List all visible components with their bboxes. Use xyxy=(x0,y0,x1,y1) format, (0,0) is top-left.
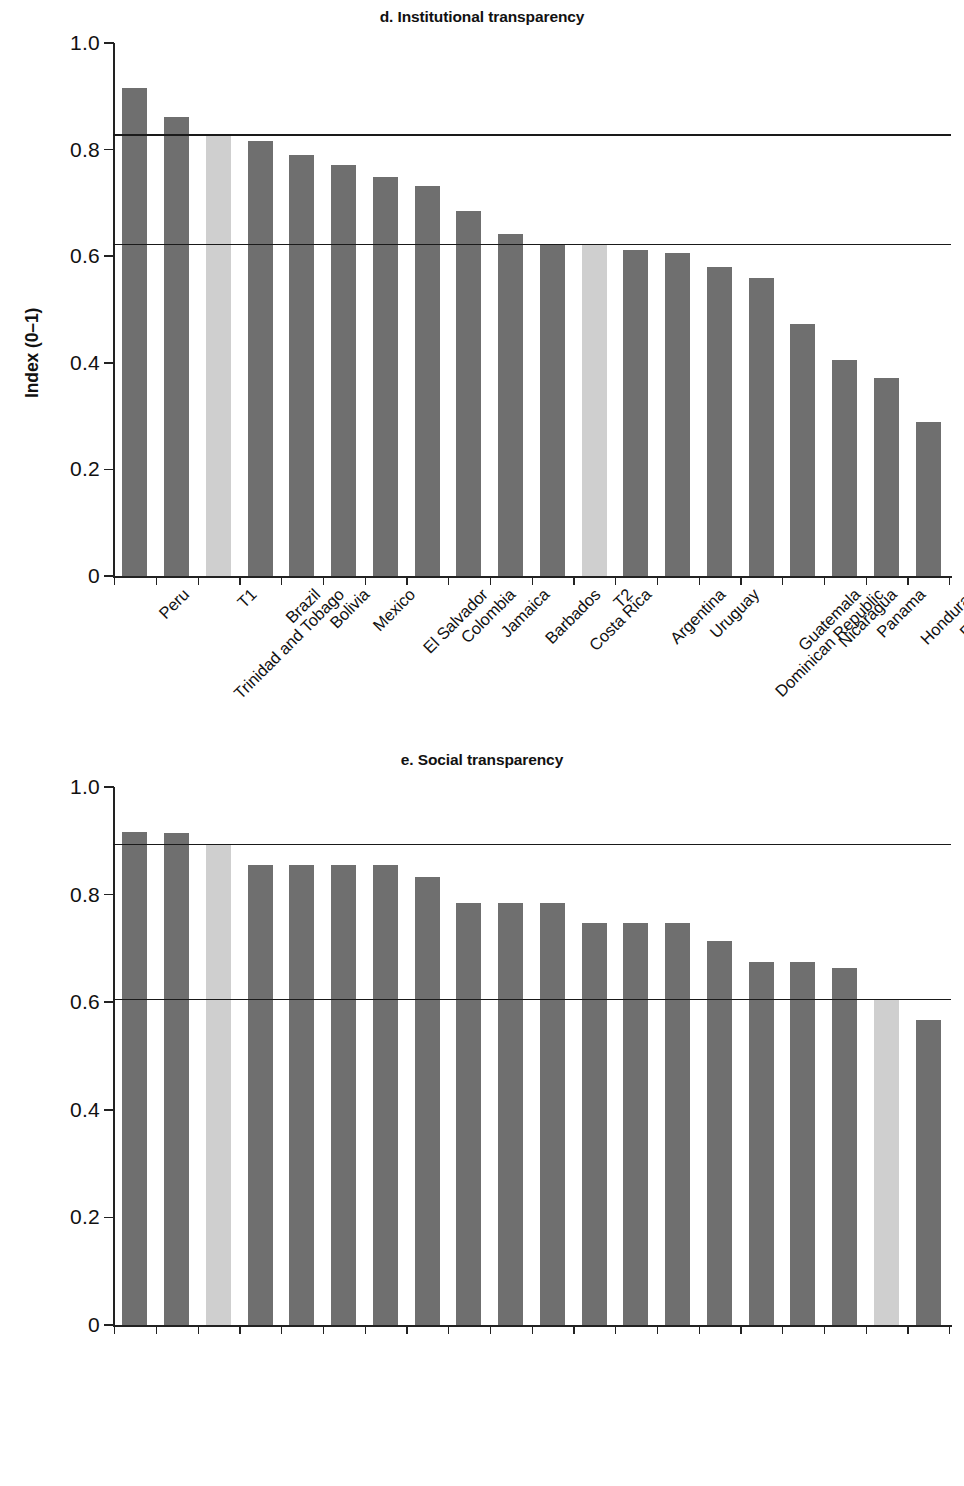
y-tick-e-1 xyxy=(104,1217,114,1219)
y-tick-label-e-1: 0.2 xyxy=(70,1205,100,1229)
y-tick-label-e-2: 0.4 xyxy=(70,1098,100,1122)
bar-e-6 xyxy=(373,865,398,1325)
x-tick-d-1 xyxy=(156,576,157,585)
panel-title-d: d. Institutional transparency xyxy=(0,8,964,26)
x-tick-e-8 xyxy=(448,1325,449,1334)
x-tick-e-2 xyxy=(198,1325,199,1334)
x-tick-d-15 xyxy=(740,576,741,585)
bar-e-1 xyxy=(164,833,189,1325)
panel-institutional-transparency: d. Institutional transparency Index (0–1… xyxy=(0,0,964,743)
y-tick-label-e-4: 0.8 xyxy=(70,883,100,907)
bar-d-5 xyxy=(331,165,356,576)
y-tick-e-3 xyxy=(104,1001,114,1003)
x-tick-d-3 xyxy=(239,576,240,585)
bar-e-8 xyxy=(456,903,481,1325)
x-axis-labels-d: PeruTrinidad and TobagoT1BrazilBoliviaMe… xyxy=(114,585,964,745)
x-tick-d-8 xyxy=(448,576,449,585)
bar-d-18 xyxy=(874,378,899,576)
bar-e-19 xyxy=(916,1020,941,1325)
bar-e-13 xyxy=(665,923,690,1325)
bar-d-16 xyxy=(790,324,815,576)
y-tick-d-4 xyxy=(104,149,114,151)
x-tick-e-14 xyxy=(699,1325,700,1334)
x-tick-e-16 xyxy=(782,1325,783,1334)
bar-e-2 xyxy=(206,845,231,1325)
y-tick-d-5 xyxy=(104,42,114,44)
x-axis-label-d-0: Peru xyxy=(155,585,193,623)
reference-line-t2-d xyxy=(113,244,951,246)
y-tick-label-d-4: 0.8 xyxy=(70,138,100,162)
bar-e-17 xyxy=(832,968,857,1325)
x-tick-e-1 xyxy=(156,1325,157,1334)
plot-area-e: 00.20.40.60.81.0 xyxy=(114,787,949,1325)
panel-title-e: e. Social transparency xyxy=(0,751,964,769)
bar-d-17 xyxy=(832,360,857,576)
reference-line-t1-e xyxy=(113,844,951,846)
x-tick-e-end xyxy=(949,1325,950,1334)
reference-line-t1-d xyxy=(113,134,951,136)
bar-group-e xyxy=(114,787,949,1325)
bar-e-11 xyxy=(582,923,607,1325)
bar-group-d xyxy=(114,43,949,576)
x-tick-d-9 xyxy=(490,576,491,585)
x-tick-e-7 xyxy=(406,1325,407,1334)
panel-social-transparency: e. Social transparency Index (0–1) 00.20… xyxy=(0,743,964,1486)
y-tick-e-5 xyxy=(104,786,114,788)
y-tick-d-0 xyxy=(104,575,114,577)
x-tick-e-6 xyxy=(365,1325,366,1334)
x-tick-e-3 xyxy=(239,1325,240,1334)
x-tick-e-15 xyxy=(740,1325,741,1334)
x-tick-d-18 xyxy=(866,576,867,585)
x-tick-d-6 xyxy=(365,576,366,585)
x-tick-d-10 xyxy=(532,576,533,585)
x-tick-e-18 xyxy=(866,1325,867,1334)
x-tick-d-16 xyxy=(782,576,783,585)
x-tick-e-19 xyxy=(907,1325,908,1334)
y-tick-label-d-2: 0.4 xyxy=(70,351,100,375)
bar-d-8 xyxy=(456,211,481,576)
x-tick-e-12 xyxy=(615,1325,616,1334)
bar-d-12 xyxy=(623,250,648,576)
y-tick-label-e-5: 1.0 xyxy=(70,775,100,799)
bar-e-15 xyxy=(749,962,774,1325)
figure-root: d. Institutional transparency Index (0–1… xyxy=(0,0,964,1486)
y-tick-e-2 xyxy=(104,1109,114,1111)
bar-e-18 xyxy=(874,1000,899,1325)
bar-e-0 xyxy=(122,832,147,1325)
x-axis-label-d-2: T1 xyxy=(234,585,261,612)
x-tick-d-12 xyxy=(615,576,616,585)
x-tick-d-19 xyxy=(907,576,908,585)
y-tick-label-d-3: 0.6 xyxy=(70,244,100,268)
x-tick-e-4 xyxy=(281,1325,282,1334)
x-tick-d-2 xyxy=(198,576,199,585)
bar-e-9 xyxy=(498,903,523,1325)
bar-d-3 xyxy=(248,141,273,576)
x-axis-label-d-5: Mexico xyxy=(369,585,419,635)
x-tick-e-5 xyxy=(323,1325,324,1334)
x-tick-e-13 xyxy=(657,1325,658,1334)
reference-line-t2-e xyxy=(113,999,951,1001)
x-tick-d-17 xyxy=(824,576,825,585)
bar-e-10 xyxy=(540,903,565,1325)
x-tick-d-14 xyxy=(699,576,700,585)
bar-d-1 xyxy=(164,117,189,576)
bar-d-13 xyxy=(665,253,690,576)
bar-d-0 xyxy=(122,88,147,576)
x-tick-d-5 xyxy=(323,576,324,585)
bar-d-15 xyxy=(749,278,774,576)
bar-d-2 xyxy=(206,135,231,576)
x-tick-e-9 xyxy=(490,1325,491,1334)
bar-e-12 xyxy=(623,923,648,1325)
bar-e-4 xyxy=(289,865,314,1325)
bar-e-5 xyxy=(331,865,356,1325)
plot-area-d: 00.20.40.60.81.0 xyxy=(114,43,949,576)
y-tick-d-2 xyxy=(104,362,114,364)
x-tick-e-10 xyxy=(532,1325,533,1334)
bar-e-7 xyxy=(415,877,440,1325)
bar-e-3 xyxy=(248,865,273,1325)
x-tick-e-17 xyxy=(824,1325,825,1334)
x-tick-e-0 xyxy=(114,1325,115,1334)
x-tick-d-end xyxy=(949,576,950,585)
y-tick-label-d-1: 0.2 xyxy=(70,457,100,481)
bar-d-9 xyxy=(498,234,523,576)
